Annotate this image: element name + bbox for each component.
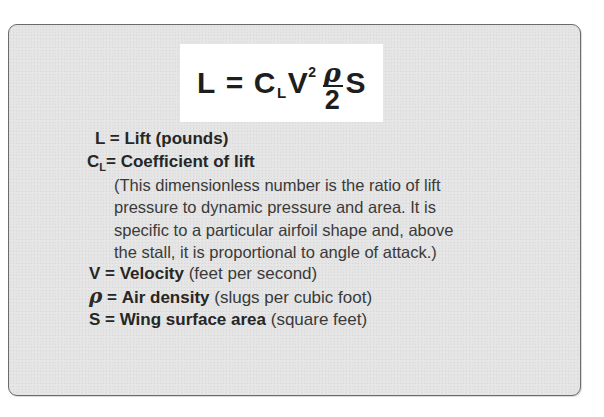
formula-equals: = [226,66,244,100]
formula-area: S [346,66,367,100]
definition-density: ρ = Air density (slugs per cubic foot) [89,284,372,308]
definition-coefficient: CL= Coefficient of lift [87,152,255,172]
rho-icon: ρ [89,284,102,308]
definition-velocity: V = Velocity (feet per second) [89,264,317,284]
definition-area: S = Wing surface area (square feet) [89,310,367,330]
coefficient-note: (This dimensionless number is the ratio … [114,174,453,263]
lift-equation-panel: L = CL V2 ρ 2 S L = Lift (pounds) CL= Co… [8,24,581,396]
lift-formula: L = CL V2 ρ 2 S [180,44,383,122]
formula-density-fraction: ρ 2 [323,62,343,112]
definition-lift: L = Lift (pounds) [95,129,228,149]
formula-velocity-exp: 2 [308,64,316,80]
formula-velocity: V [288,66,309,100]
formula-rho: ρ [324,62,342,84]
formula-lift: L [197,66,216,100]
formula-two: 2 [325,88,341,112]
formula-coef-sub: L [277,84,287,101]
formula-coef: C [254,66,276,100]
